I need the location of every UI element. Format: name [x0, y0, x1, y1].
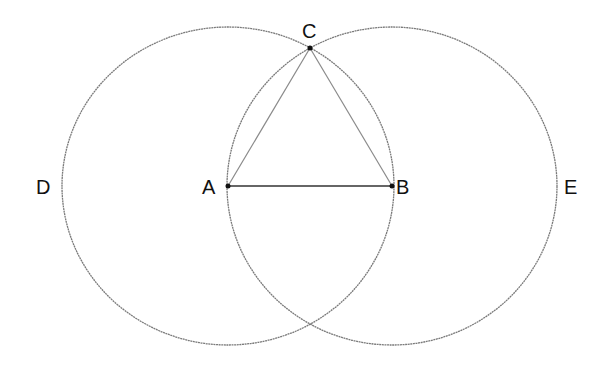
point-b [390, 184, 395, 189]
label-b: B [396, 176, 409, 198]
label-e: E [564, 176, 577, 198]
segment-bc [310, 48, 392, 186]
point-a [226, 184, 231, 189]
label-a: A [202, 176, 216, 198]
label-d: D [36, 176, 50, 198]
segment-ac [228, 48, 310, 186]
geometry-diagram: C A B D E [0, 0, 615, 375]
label-c: C [302, 20, 316, 42]
point-c [308, 46, 313, 51]
